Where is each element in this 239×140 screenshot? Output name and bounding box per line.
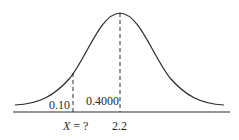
x-unknown: = ? xyxy=(70,119,88,133)
left-tail-area-label: 0.10 xyxy=(49,98,70,112)
middle-area-label: 0.4000 xyxy=(86,94,119,108)
normal-curve-diagram: 0.10 0.4000 X = ? 2.2 xyxy=(0,0,239,140)
mean-label: 2.2 xyxy=(112,119,127,133)
x-label: X = ? xyxy=(62,119,88,133)
